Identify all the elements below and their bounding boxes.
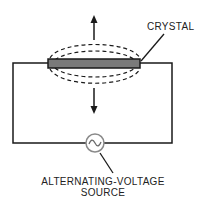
crystal-label: CRYSTAL [147, 21, 194, 32]
piezo-crystal-diagram: CRYSTAL ALTERNATING-VOLTAGE SOURCE [0, 0, 206, 206]
source-leader-line [100, 153, 113, 173]
arrow-up-icon [91, 15, 98, 40]
crystal-leader-line [141, 34, 164, 61]
circuit-wires [13, 63, 172, 143]
source-label-line2: SOURCE [81, 187, 126, 198]
arrow-down-icon [91, 88, 98, 114]
source-label-line1: ALTERNATING-VOLTAGE [41, 176, 164, 187]
crystal-bar [48, 59, 140, 68]
ac-source-icon [86, 134, 104, 152]
